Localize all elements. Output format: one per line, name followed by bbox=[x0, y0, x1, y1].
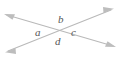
line-1-start-arrowhead bbox=[4, 14, 15, 20]
line-2-start-arrowhead bbox=[5, 48, 16, 54]
angle-diagram-figure: a b c d bbox=[0, 0, 126, 60]
angle-label-a: a bbox=[35, 27, 41, 38]
angle-label-c: c bbox=[71, 27, 76, 38]
line-2-end-arrowhead bbox=[103, 7, 114, 13]
intersecting-lines-svg bbox=[0, 0, 126, 60]
line-1-end-arrowhead bbox=[105, 41, 116, 47]
angle-label-d: d bbox=[55, 36, 61, 47]
angle-label-b: b bbox=[58, 14, 64, 25]
